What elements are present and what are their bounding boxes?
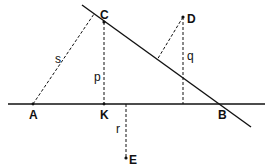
segment-d-perpendicular bbox=[157, 17, 183, 60]
point-e-dot bbox=[124, 156, 127, 159]
label-c: C bbox=[100, 8, 109, 22]
label-a: A bbox=[29, 108, 38, 122]
geometry-diagram: A K B C D E s p q r bbox=[0, 0, 268, 166]
label-q: q bbox=[187, 49, 194, 63]
label-e: E bbox=[129, 153, 137, 166]
point-d-dot bbox=[181, 15, 184, 18]
point-k-dot bbox=[103, 103, 106, 106]
diagram-canvas: A K B C D E s p q r bbox=[0, 0, 268, 166]
label-s: s bbox=[55, 52, 61, 66]
segment-s bbox=[33, 14, 94, 104]
label-p: p bbox=[94, 70, 101, 84]
label-r: r bbox=[116, 122, 120, 136]
label-d: D bbox=[187, 12, 196, 26]
point-a-dot bbox=[32, 103, 35, 106]
label-b: B bbox=[218, 108, 227, 122]
label-k: K bbox=[100, 108, 109, 122]
